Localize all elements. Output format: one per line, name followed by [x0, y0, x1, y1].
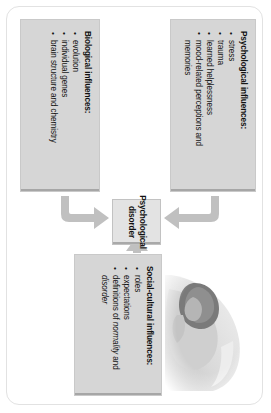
list-item: individual genes [58, 40, 69, 182]
psychological-disorder-box: Psychological disorder [112, 199, 161, 245]
definitions-prefix: definitions of [111, 275, 120, 322]
biological-influences-title: Biological influences: [82, 31, 92, 182]
arrow-biological-to-center [61, 196, 109, 229]
psychological-influences-list: stress trauma learned helplessness mood-… [181, 31, 236, 182]
social-cultural-influences-list: roles expectations definitions of normal… [98, 266, 142, 386]
list-item: mood-related perceptions and memories [181, 40, 203, 182]
psychological-influences-title: Psychological influences: [238, 31, 248, 182]
list-item: roles [131, 275, 142, 386]
social-cultural-influences-title: Social-cultural influences: [144, 266, 154, 386]
definitions-conjunction: and [111, 354, 120, 370]
photo-artwork [161, 253, 257, 396]
arrow-psychological-to-center [164, 196, 219, 229]
list-item: brain structure and chemistry [47, 40, 58, 182]
psychological-influences-box: Psychological influences: stress trauma … [170, 19, 256, 192]
list-item: expectations [120, 275, 131, 386]
psychological-disorder-label: Psychological disorder [126, 195, 147, 249]
definitions-italic-normality: normality [111, 322, 120, 354]
list-item: stress [225, 40, 236, 182]
definitions-italic-disorder: disorder [100, 275, 109, 304]
diagram-page: Psychological influences: stress trauma … [0, 0, 271, 413]
list-item: learned helplessness [203, 40, 214, 182]
distressed-person-photo [161, 253, 257, 396]
social-cultural-influences-box: Social-cultural influences: roles expect… [74, 254, 162, 396]
biological-influences-list: evolution individual genes brain structu… [47, 31, 80, 182]
list-item-definitions: definitions of normality and disorder [98, 275, 120, 386]
diagram-canvas: Psychological influences: stress trauma … [0, 0, 271, 413]
list-item: evolution [69, 40, 80, 182]
biological-influences-box: Biological influences: evolution individ… [20, 19, 100, 192]
list-item: trauma [214, 40, 225, 182]
